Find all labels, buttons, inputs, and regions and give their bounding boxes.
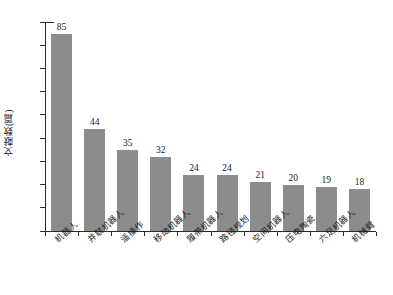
x-tick-mark [78, 232, 79, 236]
bar-value-label: 85 [48, 22, 76, 33]
bar [84, 129, 105, 231]
y-tick-mark [40, 45, 45, 46]
x-tick-mark [277, 232, 278, 236]
y-tick-mark [40, 184, 45, 185]
bar-value-label: 44 [81, 117, 109, 128]
y-axis-title: 文献数(篇) [1, 78, 19, 188]
y-tick-mark [40, 207, 45, 208]
y-axis-line [45, 22, 46, 232]
bar-value-label: 20 [279, 173, 307, 184]
bar-value-label: 19 [312, 175, 340, 186]
bar-value-label: 35 [114, 138, 142, 149]
x-tick-mark [45, 232, 46, 236]
bar-value-label: 21 [246, 170, 274, 181]
y-tick-mark [40, 68, 45, 69]
y-tick-mark [40, 138, 45, 139]
x-tick-mark [310, 232, 311, 236]
x-tick-mark [144, 232, 145, 236]
x-tick-mark [343, 232, 344, 236]
x-tick-mark [376, 232, 377, 236]
bar-value-label: 32 [147, 145, 175, 156]
y-tick-mark [40, 114, 45, 115]
x-tick-mark [177, 232, 178, 236]
x-tick-mark [111, 232, 112, 236]
bar [51, 34, 72, 231]
bar-value-label: 18 [345, 177, 373, 188]
x-tick-mark [244, 232, 245, 236]
x-tick-mark [211, 232, 212, 236]
y-tick-mark [40, 91, 45, 92]
y-tick-mark [40, 161, 45, 162]
bar [150, 157, 171, 231]
bar-chart: 文献数(篇) 0102030405060708090 8544353224242… [0, 0, 393, 295]
y-tick-mark [40, 22, 45, 23]
bar-value-label: 24 [213, 163, 241, 174]
bar-value-label: 24 [180, 163, 208, 174]
